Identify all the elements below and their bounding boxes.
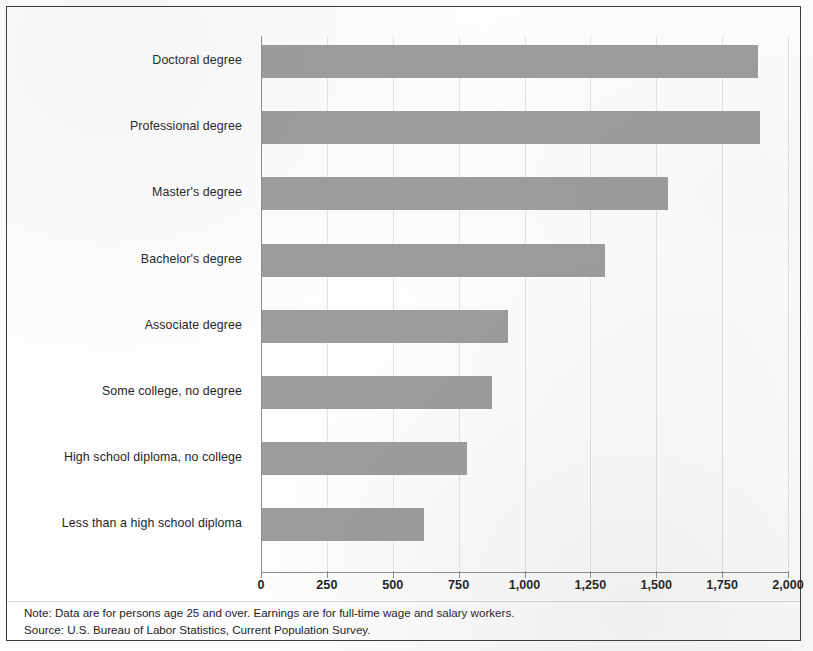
category-label: Professional degree	[0, 119, 242, 133]
plot-area	[261, 36, 788, 570]
bar	[261, 45, 758, 78]
category-label: Some college, no degree	[0, 384, 242, 398]
y-axis-line	[261, 36, 262, 574]
x-axis-tick-label: 0	[257, 578, 264, 592]
category-label: Master's degree	[0, 185, 242, 199]
x-axis-tick-label: 2,000	[772, 578, 804, 592]
category-label: Less than a high school diploma	[0, 516, 242, 530]
x-axis-tick-mark	[590, 571, 591, 578]
x-axis-tick-label: 1,250	[575, 578, 607, 592]
bar	[261, 244, 605, 277]
x-axis-tick-mark	[327, 571, 328, 578]
gridline	[788, 36, 789, 570]
category-label: Doctoral degree	[0, 53, 242, 67]
bar	[261, 442, 467, 475]
chart-figure: Doctoral degreeProfessional degreeMaster…	[0, 0, 813, 651]
x-axis-tick-label: 1,500	[640, 578, 672, 592]
x-axis-tick-mark	[525, 571, 526, 578]
bar	[261, 508, 424, 541]
x-axis-tick-label: 1,750	[706, 578, 738, 592]
footnote-divider	[7, 601, 800, 602]
x-axis-tick-mark	[788, 571, 789, 578]
x-axis-tick-label: 1,000	[509, 578, 541, 592]
x-axis-tick-mark	[393, 571, 394, 578]
x-axis-tick-mark	[261, 571, 262, 578]
category-label: High school diploma, no college	[0, 450, 242, 464]
x-axis-tick-label: 750	[448, 578, 469, 592]
category-label: Associate degree	[0, 318, 242, 332]
footnote-source: Source: U.S. Bureau of Labor Statistics,…	[24, 622, 764, 639]
x-axis-tick-mark	[722, 571, 723, 578]
bar	[261, 177, 668, 210]
x-axis-tick-labels: 02505007501,0001,2501,5001,7502,000	[261, 578, 788, 600]
bar	[261, 376, 492, 409]
footnote-block: Note: Data are for persons age 25 and ov…	[24, 605, 764, 638]
bar	[261, 111, 760, 144]
footnote-note: Note: Data are for persons age 25 and ov…	[24, 605, 764, 622]
category-label: Bachelor's degree	[0, 252, 242, 266]
x-axis-tick-mark	[656, 571, 657, 578]
x-axis-tick-mark	[459, 571, 460, 578]
x-axis-tick-label: 500	[382, 578, 403, 592]
bar	[261, 310, 508, 343]
x-axis-tick-label: 250	[316, 578, 337, 592]
category-axis-labels: Doctoral degreeProfessional degreeMaster…	[0, 36, 252, 570]
